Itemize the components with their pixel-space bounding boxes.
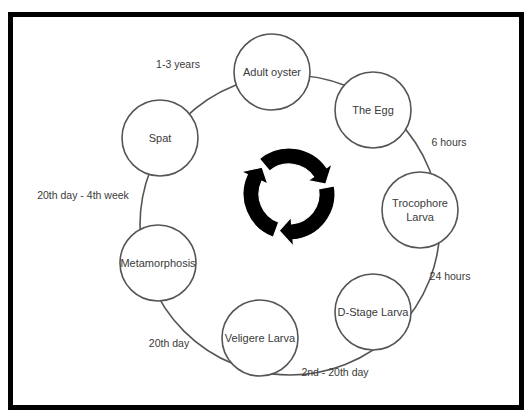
duration-label-veligere-to-metamorphosis: 20th day: [149, 337, 190, 349]
stage-node-metamorphosis: Metamorphosis: [120, 225, 196, 301]
life-cycle-diagram: Adult oysterThe EggTrocophoreLarvaD-Stag…: [0, 0, 532, 418]
stage-label: Larva: [406, 211, 434, 223]
duration-label-adult-to-egg: 1-3 years: [156, 58, 200, 70]
duration-label-trocophore-to-dstage: 24 hours: [430, 270, 471, 282]
duration-label-dstage-to-veligere: 2nd - 20th day: [301, 366, 369, 378]
stage-nodes: Adult oysterThe EggTrocophoreLarvaD-Stag…: [120, 34, 458, 376]
stage-label: Metamorphosis: [120, 257, 196, 269]
stage-label: Adult oyster: [243, 66, 301, 78]
stage-label: Spat: [149, 132, 172, 144]
stage-label: Veligere Larva: [225, 332, 296, 344]
stage-node-adult-oyster: Adult oyster: [234, 34, 310, 110]
stage-node-spat: Spat: [122, 100, 198, 176]
duration-label-egg-to-trocophore: 6 hours: [431, 136, 466, 148]
stage-node-veligere-larva: Veligere Larva: [222, 300, 298, 376]
stage-node-d-stage-larva: D-Stage Larva: [335, 274, 411, 350]
stage-label: The Egg: [352, 104, 394, 116]
stage-node-trocophore-larva: TrocophoreLarva: [382, 172, 458, 248]
duration-label-metamorphosis-to-spat: 20th day - 4th week: [37, 189, 129, 201]
cycle-arrow-segment: [241, 167, 278, 237]
cycle-arrow-segment: [279, 186, 335, 246]
stage-label: D-Stage Larva: [338, 306, 410, 318]
stage-label: Trocophore: [392, 197, 448, 209]
cycle-arrows-icon: [241, 148, 335, 246]
cycle-arrow-segment: [259, 148, 332, 184]
stage-circle: [382, 172, 458, 248]
stage-node-the-egg: The Egg: [335, 72, 411, 148]
